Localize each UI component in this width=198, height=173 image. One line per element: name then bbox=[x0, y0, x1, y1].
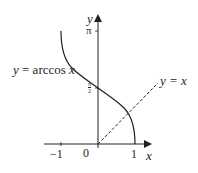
line-label: y = x bbox=[160, 74, 187, 87]
tick-label-pi-over-2: π 2 bbox=[88, 81, 91, 94]
tick-label-neg1: −1 bbox=[50, 148, 63, 160]
identity-line bbox=[98, 83, 158, 144]
tick-label-pi: π bbox=[86, 25, 92, 36]
tick-label-0: 0 bbox=[83, 147, 89, 159]
tick-label-1: 1 bbox=[131, 148, 137, 160]
x-axis-label: x bbox=[146, 149, 152, 162]
curve-label: y = arccos x bbox=[13, 63, 75, 76]
arccos-figure: y = arccos x y = x y x π π 2 −1 0 1 bbox=[0, 0, 198, 173]
